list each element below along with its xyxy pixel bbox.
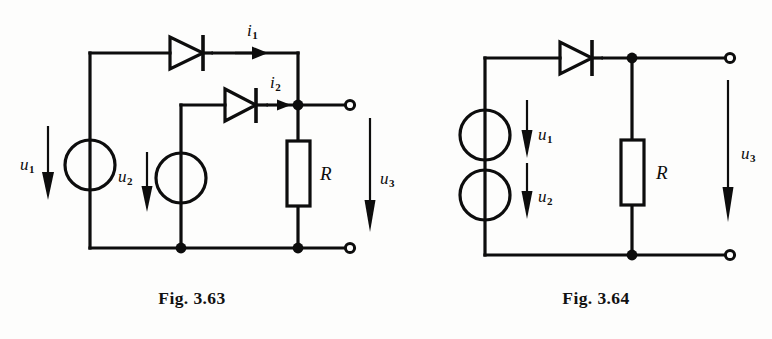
- voltage-source-u2-symbol: [156, 153, 206, 203]
- figure-caption-3-63: Fig. 3.63: [0, 288, 392, 309]
- voltage-arrow-u1-symbol: [522, 100, 533, 158]
- label-resistor-r: R: [656, 162, 668, 184]
- terminal-bottom-circle: [345, 243, 354, 252]
- circuit-schematic-3-63: [0, 0, 400, 300]
- diode-d2-symbol: [225, 88, 268, 123]
- junction-dot-top-node-2: [627, 53, 638, 64]
- label-u3: u3: [380, 170, 395, 189]
- terminal-top-circle: [345, 100, 354, 109]
- label-i1: i1: [247, 22, 258, 41]
- figure-3-63: u1 u2 u3 i1 i2 R Fig. 3.63: [0, 0, 400, 339]
- current-arrow-i1-symbol: [235, 47, 268, 60]
- label-resistor-r: R: [320, 163, 332, 185]
- label-u2: u2: [538, 188, 553, 207]
- resistor-r-symbol: [621, 140, 644, 205]
- terminal-bottom-circle-2: [725, 250, 734, 259]
- label-i2: i2: [270, 74, 281, 93]
- current-arrow-i2-symbol: [268, 100, 291, 111]
- label-u3: u3: [741, 145, 756, 164]
- circuit-schematic-3-64: [400, 0, 772, 300]
- voltage-arrow-u2-symbol: [522, 163, 533, 219]
- voltage-arrow-u3-symbol: [723, 80, 734, 222]
- open-terminals: [725, 53, 734, 259]
- junction-dot-resistor-bottom: [293, 243, 304, 254]
- label-u1: u1: [20, 156, 35, 175]
- voltage-source-u1-symbol: [65, 140, 115, 190]
- open-terminals: [345, 100, 354, 252]
- figure-3-64: u1 u2 u3 R Fig. 3.64: [400, 0, 772, 339]
- resistor-r-symbol: [287, 141, 310, 206]
- label-u2: u2: [118, 168, 133, 187]
- diode-d1-symbol: [170, 35, 213, 71]
- junction-dot-top-node: [293, 100, 304, 111]
- voltage-source-u2-symbol: [460, 170, 510, 220]
- label-u1: u1: [538, 126, 553, 145]
- voltage-source-u1-symbol: [460, 110, 510, 160]
- junction-dot-mid-bottom: [176, 243, 187, 254]
- voltage-arrow-u2-symbol: [142, 152, 153, 212]
- figure-page: u1 u2 u3 i1 i2 R Fig. 3.63: [0, 0, 772, 339]
- voltage-arrow-u3-symbol: [365, 118, 376, 232]
- junction-dot-bottom-node-2: [627, 250, 638, 261]
- figure-caption-3-64: Fig. 3.64: [410, 288, 772, 309]
- terminal-top-circle-2: [725, 53, 734, 62]
- diode-d1-symbol: [560, 40, 603, 76]
- voltage-arrow-u1-symbol: [42, 126, 54, 200]
